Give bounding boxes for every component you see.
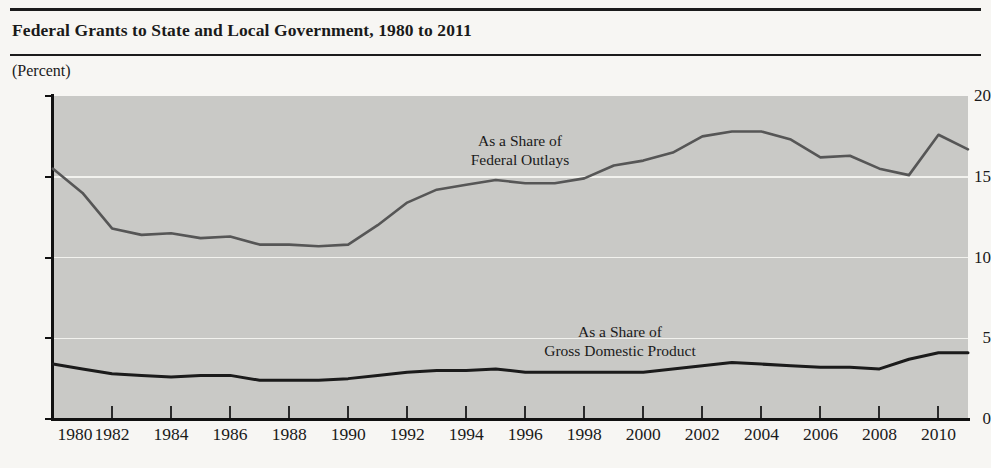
x-tick-label: 2006 (803, 424, 838, 445)
annotation-gdp: As a Share of Gross Domestic Product (544, 322, 696, 361)
x-tick-mark (760, 406, 762, 418)
x-tick-label: 1998 (567, 424, 602, 445)
gridline (53, 176, 968, 178)
x-tick-mark (347, 406, 349, 418)
annotation-gdp-line2: Gross Domestic Product (544, 341, 696, 360)
x-tick-label: 2002 (685, 424, 720, 445)
x-tick-mark (583, 406, 585, 418)
x-tick-label: 1990 (331, 424, 366, 445)
y-tick-label: 15 (949, 168, 991, 185)
x-tick-mark (170, 406, 172, 418)
annotation-federal-outlays-line2: Federal Outlays (471, 150, 570, 169)
x-tick-label: 1980 (58, 424, 93, 445)
x-tick-label: 2008 (862, 424, 897, 445)
y-tick-label: 5 (949, 329, 991, 346)
y-axis-line (51, 94, 54, 421)
y-tick-label: 10 (949, 249, 991, 266)
x-tick-mark (819, 406, 821, 418)
x-tick-label: 2000 (626, 424, 661, 445)
x-tick-mark (937, 406, 939, 418)
x-tick-label: 1996 (508, 424, 543, 445)
x-tick-mark (642, 406, 644, 418)
x-tick-mark (406, 406, 408, 418)
x-tick-mark (229, 406, 231, 418)
x-tick-mark (111, 406, 113, 418)
x-tick-label: 1992 (390, 424, 425, 445)
y-tick-label: 20 (949, 87, 991, 104)
annotation-gdp-line1: As a Share of (544, 322, 696, 341)
x-tick-mark (701, 406, 703, 418)
gridline (53, 257, 968, 259)
x-tick-mark (465, 406, 467, 418)
annotation-federal-outlays-line1: As a Share of (471, 131, 570, 150)
x-tick-label: 1988 (272, 424, 307, 445)
annotation-federal-outlays: As a Share of Federal Outlays (471, 131, 570, 170)
x-tick-mark (878, 406, 880, 418)
x-tick-label: 2010 (921, 424, 956, 445)
x-tick-label: 1984 (154, 424, 189, 445)
x-tick-label: 1994 (449, 424, 484, 445)
chart-plot: 05101520 1980198219841986198819901992199… (0, 0, 991, 468)
x-tick-mark (288, 406, 290, 418)
gridline (53, 338, 968, 340)
x-tick-label: 1986 (213, 424, 248, 445)
x-tick-label: 1982 (95, 424, 130, 445)
x-axis-line (51, 418, 970, 421)
x-tick-label: 2004 (744, 424, 779, 445)
x-tick-mark (524, 406, 526, 418)
